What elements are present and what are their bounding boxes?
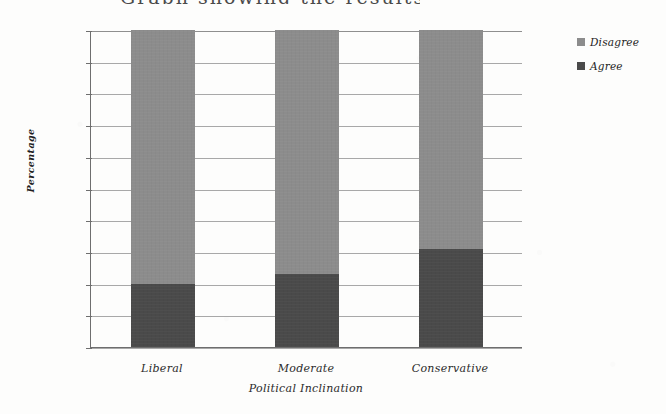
stacked-bar-chart: Percentage 0%10%20%30%40%50%60%70%80%90%… [0,0,666,414]
y-axis-tick [86,158,92,159]
bar-segment-disagree [275,30,339,274]
gridline [91,348,522,349]
legend-label-agree: Agree [590,60,623,72]
legend-swatch-agree-icon [577,62,585,70]
bar-liberal [131,30,195,347]
y-axis-tick [86,94,92,95]
y-axis-tick [86,190,92,191]
bar-segment-agree [131,284,195,347]
bar-segment-agree [275,274,339,347]
y-axis-tick [86,285,92,286]
x-axis-label-liberal: Liberal [92,362,232,375]
legend-label-disagree: Disagree [590,36,639,48]
y-axis-tick [86,63,92,64]
y-axis-tick [86,348,92,349]
x-axis-title: Political Inclination [90,382,522,395]
y-axis-tick [86,126,92,127]
chart-legend: Disagree Agree [577,30,663,78]
bar-moderate [275,30,339,347]
x-axis-label-conservative: Conservative [380,362,520,375]
y-axis-tick [86,253,92,254]
bar-segment-agree [419,249,483,347]
legend-item-disagree: Disagree [577,30,663,54]
bar-segment-disagree [419,30,483,249]
x-axis-label-moderate: Moderate [236,362,376,375]
legend-swatch-disagree-icon [577,38,585,46]
plot-area: 0%10%20%30%40%50%60%70%80%90%100% [90,31,522,348]
scanned-page: Graph showing the results Percentage 0%1… [0,0,666,414]
y-axis-tick [86,316,92,317]
bar-segment-disagree [131,30,195,284]
y-axis-tick [86,221,92,222]
y-axis-title: Percentage [25,116,36,206]
bar-conservative [419,30,483,347]
y-axis-tick [86,31,92,32]
legend-item-agree: Agree [577,54,663,78]
